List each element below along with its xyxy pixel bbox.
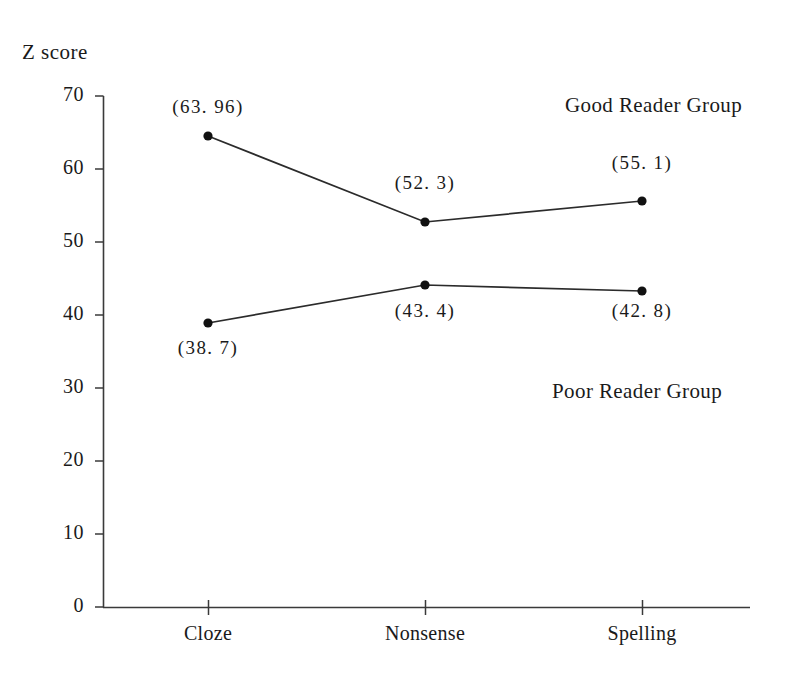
data-point xyxy=(203,131,212,140)
data-point-label-poor-spelling: (42. 8) xyxy=(572,300,712,322)
y-axis-ticks xyxy=(95,96,104,607)
data-point-label-poor-cloze: (38. 7) xyxy=(138,337,278,359)
data-point-label-good-nonsense: (52. 3) xyxy=(355,172,495,194)
y-tick-label: 0 xyxy=(36,594,84,617)
y-tick-label: 40 xyxy=(36,302,84,325)
series-label-poor-reader-group: Poor Reader Group xyxy=(552,379,722,404)
y-tick-label: 10 xyxy=(36,521,84,544)
data-point-label-good-spelling: (55. 1) xyxy=(572,152,712,174)
data-point-label-good-cloze: (63. 96) xyxy=(138,96,278,118)
data-point-label-poor-nonsense: (43. 4) xyxy=(355,300,495,322)
y-tick-label: 60 xyxy=(36,156,84,179)
data-point xyxy=(203,318,212,327)
data-point xyxy=(420,217,429,226)
y-tick-label: 30 xyxy=(36,375,84,398)
series-label-good-reader-group: Good Reader Group xyxy=(565,93,742,118)
x-tick-label-cloze: Cloze xyxy=(118,622,298,645)
data-point xyxy=(637,196,646,205)
x-tick-label-nonsense: Nonsense xyxy=(335,622,515,645)
chart-figure: Z score xyxy=(0,0,786,694)
x-tick-label-spelling: Spelling xyxy=(552,622,732,645)
y-tick-label: 70 xyxy=(36,83,84,106)
data-point xyxy=(637,286,646,295)
y-tick-label: 50 xyxy=(36,229,84,252)
y-tick-label: 20 xyxy=(36,448,84,471)
data-point xyxy=(420,280,429,289)
